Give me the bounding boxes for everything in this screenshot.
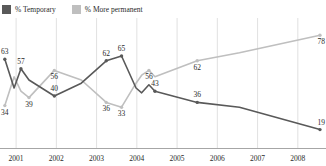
x-tick-label: 2008 — [290, 154, 305, 163]
legend-item-temporary: % Temporary — [2, 5, 56, 14]
chart-legend: % Temporary % More permanent — [0, 0, 326, 18]
data-point-marker — [120, 54, 123, 57]
data-point-label: 78 — [318, 37, 326, 46]
data-point-label: 62 — [193, 63, 201, 72]
legend-swatch-temporary — [2, 5, 11, 14]
data-point-label: 40 — [51, 84, 59, 93]
plot-svg: 63574062654336193439563633566278 — [0, 18, 326, 148]
data-point-marker — [53, 94, 56, 97]
series-line — [5, 35, 320, 107]
legend-label-temporary: % Temporary — [15, 5, 56, 14]
legend-label-more-permanent: % More permanent — [85, 5, 143, 14]
x-tick-label: 2003 — [89, 154, 104, 163]
data-point-marker — [318, 128, 321, 131]
x-tick-label: 2006 — [210, 154, 225, 163]
data-point-marker — [3, 58, 6, 61]
data-point-label: 56 — [51, 72, 59, 81]
data-point-label: 33 — [118, 109, 126, 118]
x-tick-label: 2007 — [250, 154, 265, 163]
legend-item-more-permanent: % More permanent — [72, 5, 143, 14]
data-point-label: 36 — [193, 90, 201, 99]
data-point-marker — [105, 59, 108, 62]
data-point-label: 39 — [25, 100, 33, 109]
plot-area: 63574062654336193439563633566278 — [0, 18, 326, 148]
x-axis: 20012002200320042005200620072008 — [0, 148, 326, 166]
data-point-label: 57 — [17, 57, 25, 66]
chart-container: % Temporary % More permanent 63574062654… — [0, 0, 326, 166]
series-group — [3, 34, 322, 132]
x-tick-label: 2004 — [129, 154, 144, 163]
x-tick-label: 2002 — [49, 154, 64, 163]
x-axis-line — [0, 148, 326, 149]
data-labels-group: 63574062654336193439563633566278 — [1, 37, 325, 126]
data-point-label: 36 — [103, 104, 111, 113]
data-point-label: 65 — [118, 44, 126, 53]
data-point-label: 62 — [103, 49, 111, 58]
data-point-label: 19 — [318, 118, 326, 127]
data-point-label: 34 — [1, 108, 9, 117]
x-tick-label: 2001 — [9, 154, 24, 163]
data-point-marker — [196, 101, 199, 104]
legend-swatch-more-permanent — [72, 5, 81, 14]
data-point-label: 63 — [1, 47, 9, 56]
x-tick-label: 2005 — [170, 154, 185, 163]
data-point-marker — [19, 67, 22, 70]
data-point-marker — [153, 90, 156, 93]
data-point-label: 56 — [145, 72, 153, 81]
